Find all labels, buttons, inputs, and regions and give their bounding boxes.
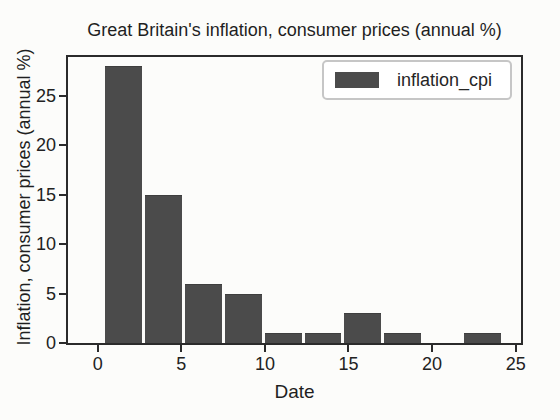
histogram-bar (225, 294, 262, 343)
x-tick-label: 10 (255, 354, 275, 375)
y-tick-mark (59, 293, 66, 295)
histogram-bar (344, 313, 381, 343)
y-tick-label: 25 (36, 85, 56, 106)
y-tick-label: 20 (36, 135, 56, 156)
y-tick-mark (59, 342, 66, 344)
x-axis-label: Date (66, 381, 523, 403)
chart-title: Great Britain's inflation, consumer pric… (66, 20, 523, 41)
y-tick-label: 5 (46, 283, 56, 304)
x-tick-mark (347, 345, 349, 352)
y-tick-mark (59, 144, 66, 146)
legend: inflation_cpi (322, 60, 512, 100)
x-tick-label: 20 (422, 354, 442, 375)
y-tick-mark (59, 95, 66, 97)
histogram-bar (384, 333, 421, 343)
y-tick-mark (59, 194, 66, 196)
plot-area: inflation_cpi 05101520250510152025 (66, 55, 523, 345)
y-tick-label: 15 (36, 184, 56, 205)
histogram-bar (145, 195, 182, 343)
x-tick-mark (97, 345, 99, 352)
figure: Great Britain's inflation, consumer pric… (0, 0, 560, 420)
x-tick-label: 15 (338, 354, 358, 375)
x-tick-label: 5 (176, 354, 186, 375)
x-tick-mark (180, 345, 182, 352)
legend-label: inflation_cpi (397, 70, 492, 91)
x-tick-mark (431, 345, 433, 352)
y-axis-label: Inflation, consumer prices (annual %) (14, 48, 35, 345)
y-tick-label: 10 (36, 234, 56, 255)
x-tick-label: 0 (93, 354, 103, 375)
x-tick-label: 25 (506, 354, 526, 375)
y-tick-mark (59, 243, 66, 245)
x-tick-mark (515, 345, 517, 352)
legend-swatch-icon (335, 72, 379, 88)
x-tick-mark (264, 345, 266, 352)
histogram-bar (105, 66, 142, 343)
y-tick-label: 0 (46, 333, 56, 354)
histogram-bar (185, 284, 222, 343)
histogram-bar (305, 333, 342, 343)
histogram-bar (265, 333, 302, 343)
histogram-bar (464, 333, 501, 343)
